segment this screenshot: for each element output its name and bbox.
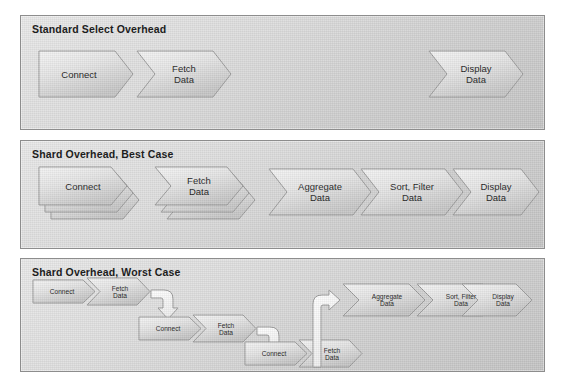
panel-title-standard-select-overhead: Standard Select Overhead [32,23,166,35]
panel-shard-overhead-worst-case: Shard Overhead, Worst Case [20,258,545,372]
step-display-data-p1: Display Data [429,51,523,97]
step-fetch-data-p1: Fetch Data [137,51,231,97]
panel-title-shard-overhead-best-case: Shard Overhead, Best Case [32,148,173,160]
step-aggregate-data-p2: Aggregate Data [269,169,371,215]
diagram-canvas: Standard Select Overhead Connect [0,0,565,384]
step-sort-filter-data-p2: Sort, Filter Data [361,169,463,215]
panel-title-shard-overhead-worst-case: Shard Overhead, Worst Case [32,266,180,278]
panel-standard-select-overhead: Standard Select Overhead Connect [20,15,545,130]
step-fetch-data-p2-stack: Fetch Data [155,167,259,229]
step-connect-p2-stack: Connect [39,167,143,229]
step-connect-p1: Connect [39,51,133,97]
step-display-data-p2: Display Data [453,169,539,215]
panel-shard-overhead-best-case: Shard Overhead, Best Case Connect [20,140,545,249]
